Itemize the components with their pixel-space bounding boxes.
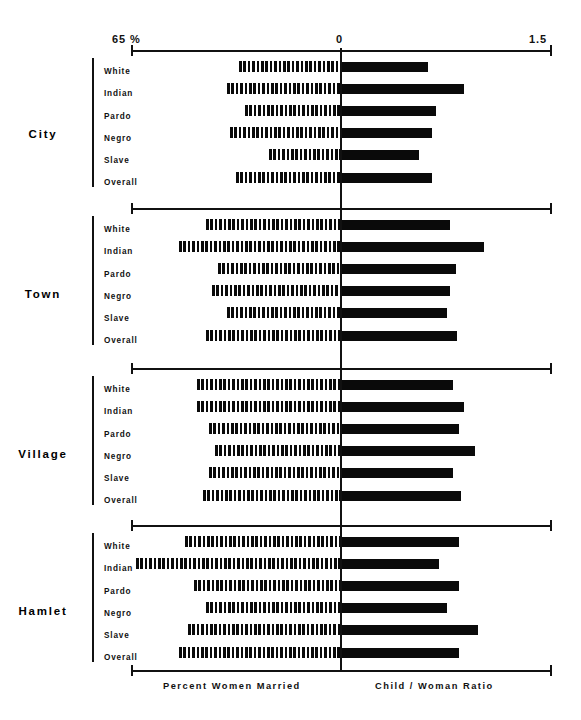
bar-married-village-white[interactable] <box>197 379 341 390</box>
bar-married-city-indian[interactable] <box>227 83 341 94</box>
row-label-village-slave: Slave <box>104 474 130 483</box>
group-title-hamlet: Hamlet <box>0 605 86 617</box>
bar-married-village-slave[interactable] <box>209 467 341 478</box>
group-title-town: Town <box>0 288 86 300</box>
bar-ratio-hamlet-pardo[interactable] <box>341 581 459 591</box>
row-label-town-overall: Overall <box>104 336 138 345</box>
row-label-town-negro: Negro <box>104 292 132 301</box>
bar-married-village-indian[interactable] <box>197 401 341 412</box>
axis-tick-right-city <box>550 45 552 56</box>
caption-percent-women-married: Percent Women Married <box>163 681 301 691</box>
row-label-village-indian: Indian <box>104 407 133 416</box>
bar-ratio-hamlet-white[interactable] <box>341 537 459 547</box>
bar-ratio-city-pardo[interactable] <box>341 106 436 116</box>
row-label-town-indian: Indian <box>104 247 133 256</box>
bar-ratio-village-indian[interactable] <box>341 402 464 412</box>
bar-ratio-town-white[interactable] <box>341 220 450 230</box>
axis-tick-right-bottom <box>550 665 552 676</box>
bar-married-town-indian[interactable] <box>179 241 341 252</box>
row-label-hamlet-overall: Overall <box>104 653 138 662</box>
row-label-city-negro: Negro <box>104 134 132 143</box>
bar-ratio-village-negro[interactable] <box>341 446 475 456</box>
bar-ratio-village-slave[interactable] <box>341 468 453 478</box>
group-rule-town <box>92 216 94 345</box>
bar-ratio-city-overall[interactable] <box>341 173 432 183</box>
bar-ratio-village-overall[interactable] <box>341 491 461 501</box>
bar-married-town-negro[interactable] <box>212 285 341 296</box>
row-label-village-overall: Overall <box>104 496 138 505</box>
bar-ratio-town-slave[interactable] <box>341 308 447 318</box>
caption-child-woman-ratio: Child / Woman Ratio <box>375 681 494 691</box>
bar-married-hamlet-white[interactable] <box>185 536 341 547</box>
bar-ratio-city-white[interactable] <box>341 62 428 72</box>
group-title-village: Village <box>0 448 86 460</box>
row-label-hamlet-slave: Slave <box>104 631 130 640</box>
axis-tick-left-city <box>131 45 133 56</box>
axis-tick-right-town <box>550 203 552 214</box>
bar-married-hamlet-indian[interactable] <box>136 558 341 569</box>
bar-married-hamlet-negro[interactable] <box>206 602 341 613</box>
group-title-city: City <box>0 128 86 140</box>
row-label-city-indian: Indian <box>104 89 133 98</box>
axis-left-tick-label: 65 % <box>112 33 141 45</box>
row-label-hamlet-indian: Indian <box>104 564 133 573</box>
bar-married-town-overall[interactable] <box>206 330 341 341</box>
bar-ratio-city-negro[interactable] <box>341 128 432 138</box>
bar-married-village-negro[interactable] <box>215 445 341 456</box>
group-rule-city <box>92 58 94 187</box>
row-label-hamlet-negro: Negro <box>104 609 132 618</box>
zero-axis-line <box>340 48 342 672</box>
group-rule-village <box>92 376 94 505</box>
bar-married-hamlet-pardo[interactable] <box>194 580 341 591</box>
row-label-village-white: White <box>104 385 131 394</box>
chart-canvas: 65 %01.5CityWhiteIndianPardoNegroSlaveOv… <box>0 0 581 720</box>
row-label-city-slave: Slave <box>104 156 130 165</box>
axis-tick-left-hamlet <box>131 520 133 531</box>
bar-ratio-village-white[interactable] <box>341 380 453 390</box>
bar-ratio-town-overall[interactable] <box>341 331 457 341</box>
row-label-village-pardo: Pardo <box>104 430 131 439</box>
bar-ratio-hamlet-slave[interactable] <box>341 625 478 635</box>
bar-married-village-overall[interactable] <box>203 490 341 501</box>
bar-married-city-overall[interactable] <box>236 172 341 183</box>
row-label-hamlet-pardo: Pardo <box>104 587 131 596</box>
axis-right-tick-label: 1.5 <box>529 33 547 45</box>
bar-married-city-white[interactable] <box>239 61 341 72</box>
row-label-town-slave: Slave <box>104 314 130 323</box>
bar-married-hamlet-overall[interactable] <box>179 647 341 658</box>
axis-tick-left-town <box>131 203 133 214</box>
axis-tick-left-bottom <box>131 665 133 676</box>
bar-married-city-slave[interactable] <box>269 149 341 160</box>
bar-married-city-negro[interactable] <box>230 127 341 138</box>
axis-tick-left-village <box>131 363 133 374</box>
axis-zero-tick-label: 0 <box>336 33 343 45</box>
bar-ratio-hamlet-overall[interactable] <box>341 648 459 658</box>
group-rule-hamlet <box>92 533 94 662</box>
row-label-city-white: White <box>104 67 131 76</box>
bar-ratio-hamlet-negro[interactable] <box>341 603 447 613</box>
bar-married-town-slave[interactable] <box>227 307 341 318</box>
bar-married-hamlet-slave[interactable] <box>188 624 341 635</box>
bar-ratio-city-slave[interactable] <box>341 150 419 160</box>
bar-married-village-pardo[interactable] <box>209 423 341 434</box>
bar-ratio-hamlet-indian[interactable] <box>341 559 439 569</box>
row-label-town-white: White <box>104 225 131 234</box>
row-label-city-overall: Overall <box>104 178 138 187</box>
row-label-city-pardo: Pardo <box>104 112 131 121</box>
bar-ratio-town-negro[interactable] <box>341 286 450 296</box>
bar-ratio-town-pardo[interactable] <box>341 264 456 274</box>
axis-tick-right-hamlet <box>550 520 552 531</box>
row-label-hamlet-white: White <box>104 542 131 551</box>
bar-ratio-village-pardo[interactable] <box>341 424 459 434</box>
row-label-village-negro: Negro <box>104 452 132 461</box>
row-label-town-pardo: Pardo <box>104 270 131 279</box>
bar-married-town-white[interactable] <box>206 219 341 230</box>
bar-married-city-pardo[interactable] <box>245 105 341 116</box>
bar-married-town-pardo[interactable] <box>218 263 341 274</box>
bar-ratio-city-indian[interactable] <box>341 84 464 94</box>
bar-ratio-town-indian[interactable] <box>341 242 484 252</box>
axis-tick-right-village <box>550 363 552 374</box>
